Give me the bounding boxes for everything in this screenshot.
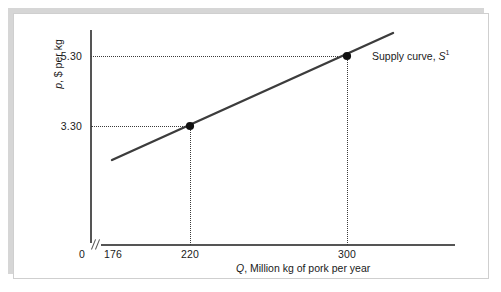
vguide-300 [347,56,348,245]
supply-curve-superscript: 1 [446,49,450,56]
x-origin-label: 0 [68,248,96,260]
x-axis-unit: , Million kg of pork per year [244,262,370,274]
x-axis-symbol: Q [236,262,244,274]
x-tick-label-176: 176 [97,248,129,260]
supply-curve-line [112,33,393,160]
supply-curve-label: Supply curve, S1 [372,49,449,62]
x-tick-label-220: 220 [174,248,206,260]
x-axis-line [101,244,455,246]
y-axis-line [90,30,92,243]
chart-plot-area: 5.30 3.30 0 176 220 300 p, $ per kg Q, M… [0,0,501,292]
hguide-330 [91,126,191,127]
y-axis-symbol: p [52,83,64,89]
supply-curve-symbol: S [439,50,446,62]
vguide-220 [190,126,191,245]
supply-curve-label-text: Supply curve, [372,50,439,62]
y-axis-unit: , $ per kg [52,39,64,83]
hguide-530 [91,56,348,57]
figure-screenshot: 5.30 3.30 0 176 220 300 p, $ per kg Q, M… [0,0,501,292]
x-tick-label-300: 300 [331,248,363,260]
x-axis-title: Q, Million kg of pork per year [236,262,370,274]
y-axis-title: p, $ per kg [52,4,64,124]
